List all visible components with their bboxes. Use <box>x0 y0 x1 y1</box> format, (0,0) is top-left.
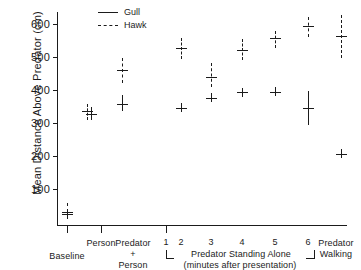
x-label-minute-3: 3 <box>196 237 226 247</box>
x-label-minute-2: 2 <box>166 237 196 247</box>
x-label-predator-walking-2: Walking <box>312 249 360 259</box>
x-label-standing-alone-2: (minutes after presentation) <box>166 260 314 270</box>
x-label-minute-4: 4 <box>227 237 257 247</box>
y-tick-100 <box>53 189 57 190</box>
x-tick-minute-1 <box>166 225 167 233</box>
mean-marker-hawk-5 <box>270 38 281 39</box>
y-axis-line <box>57 12 58 225</box>
x-label-predator-person-3: Person <box>105 260 161 270</box>
y-tick-200 <box>53 156 57 157</box>
y-tick-label-100: 100 <box>20 183 50 195</box>
y-tick-300 <box>53 123 57 124</box>
mean-marker-gull-baseline <box>62 214 73 215</box>
y-tick-label-500: 500 <box>20 51 50 63</box>
chart-figure: Mean Distance Above Predator (cm) 600 50… <box>0 0 361 270</box>
x-tick-baseline <box>67 225 68 233</box>
y-tick-600 <box>53 24 57 25</box>
mean-marker-hawk-predator-person <box>117 70 128 71</box>
mean-marker-gull-predator-person <box>117 104 128 105</box>
x-label-predator-person-2: + <box>105 249 161 259</box>
y-tick-500 <box>53 57 57 58</box>
mean-marker-gull-2 <box>176 108 187 109</box>
mean-marker-gull-3 <box>206 98 217 99</box>
y-tick-label-600: 600 <box>20 18 50 30</box>
error-bar-hawk-5 <box>275 31 276 48</box>
mean-marker-hawk-4 <box>237 50 248 51</box>
mean-marker-hawk-3 <box>206 77 217 78</box>
x-tick-person <box>101 225 102 233</box>
mean-marker-hawk-2 <box>176 48 187 49</box>
mean-marker-gull-5 <box>270 92 281 93</box>
error-bar-hawk-3 <box>211 63 212 86</box>
mean-marker-gull-predator-walking <box>336 154 347 155</box>
mean-marker-hawk-baseline <box>62 212 73 213</box>
x-label-baseline: Baseline <box>38 251 96 261</box>
legend-label-gull: Gull <box>124 7 140 18</box>
x-label-predator-walking-1: Predator <box>312 238 360 248</box>
y-tick-label-200: 200 <box>20 150 50 162</box>
y-tick-400 <box>53 90 57 91</box>
y-axis-label: Mean Distance Above Predator (cm) <box>31 3 43 203</box>
mean-marker-hawk-predator-walking <box>336 36 347 37</box>
error-bar-hawk-baseline <box>67 203 68 212</box>
legend-line-solid-icon <box>98 12 118 13</box>
mean-marker-gull-6 <box>303 108 314 109</box>
mean-marker-hawk-6 <box>303 26 314 27</box>
x-label-minute-5: 5 <box>260 237 290 247</box>
y-tick-label-400: 400 <box>20 84 50 96</box>
standing-alone-bracket-bar <box>166 258 174 259</box>
error-bar-hawk-6 <box>308 17 309 37</box>
legend-label-hawk: Hawk <box>124 20 147 31</box>
legend-line-dashed-icon <box>98 25 118 26</box>
y-tick-label-300: 300 <box>20 117 50 129</box>
mean-marker-gull-4 <box>237 92 248 93</box>
x-label-standing-alone-1: Predator Standing Alone <box>176 249 306 259</box>
mean-marker-hawk-person <box>82 111 93 112</box>
